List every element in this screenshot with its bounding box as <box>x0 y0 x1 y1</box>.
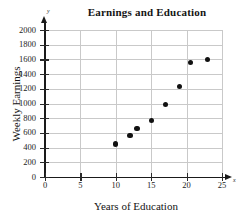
x-tick-label-25: 25 <box>210 181 234 190</box>
gridline-y-600 <box>45 133 222 134</box>
y-tick-200 <box>40 162 49 163</box>
y-tick-label-2000: 2000 <box>2 26 36 35</box>
y-tick-1200 <box>40 89 49 90</box>
gridline-y-200 <box>45 162 222 163</box>
y-tick-800 <box>40 118 49 119</box>
y-tick-600 <box>40 133 49 134</box>
x-tick-label-20: 20 <box>175 181 199 190</box>
x-axis-letter: x <box>233 177 236 183</box>
data-point <box>134 126 139 131</box>
gridline-y-2000 <box>45 30 222 31</box>
gridline-y-1400 <box>45 74 222 75</box>
data-point <box>163 102 168 107</box>
gridline-x-20 <box>187 30 188 177</box>
data-point <box>188 60 193 65</box>
gridline-y-400 <box>45 148 222 149</box>
y-axis-title: Weekly Earnings <box>10 34 22 174</box>
gridline-y-1000 <box>45 104 222 105</box>
scatter-chart: Earnings and Education 02004006008001000… <box>0 0 248 222</box>
gridline-x-10 <box>116 30 117 177</box>
y-tick-400 <box>40 148 49 149</box>
gridline-y-1800 <box>45 45 222 46</box>
data-point <box>127 133 132 138</box>
gridline-x-5 <box>80 30 81 177</box>
gridline-y-1200 <box>45 89 222 90</box>
data-point <box>149 118 154 123</box>
x-axis-title: Years of Education <box>44 200 228 212</box>
gridline-x-25 <box>222 30 223 177</box>
x-tick-label-5: 5 <box>68 181 92 190</box>
gridline-x-15 <box>151 30 152 177</box>
y-axis-letter: y <box>47 8 50 14</box>
x-tick-label-10: 10 <box>104 181 128 190</box>
gridline-y-1600 <box>45 59 222 60</box>
y-tick-1800 <box>40 45 49 46</box>
x-tick-label-15: 15 <box>139 181 163 190</box>
data-point <box>205 57 210 62</box>
y-tick-1400 <box>40 74 49 75</box>
gridline-y-800 <box>45 118 222 119</box>
data-point <box>113 141 118 146</box>
x-axis-arrow-icon <box>225 174 232 180</box>
plot-area <box>45 30 222 177</box>
x-axis-line <box>44 177 226 179</box>
x-tick-label-0: 0 <box>33 181 57 190</box>
y-tick-2000 <box>40 30 49 31</box>
chart-title: Earnings and Education <box>62 6 232 18</box>
y-tick-1600 <box>40 59 49 60</box>
y-tick-1000 <box>40 104 49 105</box>
y-axis-arrow-icon <box>41 16 47 23</box>
